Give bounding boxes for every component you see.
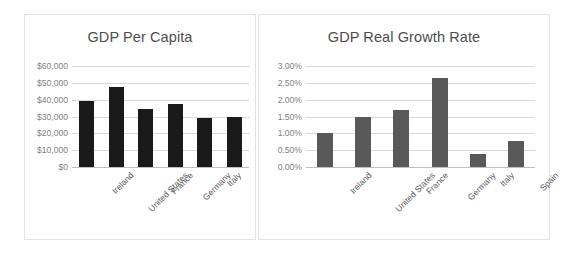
x-tick-label: Italy: [498, 171, 515, 188]
x-tick-label: France: [170, 171, 195, 196]
x-tick-label: Spain: [538, 171, 560, 193]
plot-area-gdp-real-growth-rate: 0.00%0.50%1.00%1.50%2.00%2.50%3.00% Irel…: [259, 15, 549, 239]
chart-panel-gdp-real-growth-rate[interactable]: GDP Real Growth Rate 0.00%0.50%1.00%1.50…: [258, 14, 550, 240]
charts-canvas: GDP Per Capita $0$10,000$20,000$30,000$4…: [0, 0, 575, 262]
plot-area-gdp-per-capita: $0$10,000$20,000$30,000$40,000$50,000$60…: [25, 15, 255, 239]
x-tick-label: Ireland: [349, 171, 374, 196]
x-axis-gdp-per-capita: IrelandUnited StatesFranceGermanyItalySp…: [25, 15, 255, 239]
x-axis-gdp-real-growth-rate: IrelandUnited StatesFranceGermanyItalySp…: [259, 15, 549, 239]
x-tick-label: Ireland: [110, 171, 135, 196]
chart-panel-gdp-per-capita[interactable]: GDP Per Capita $0$10,000$20,000$30,000$4…: [24, 14, 256, 240]
x-tick-label: Germany: [202, 171, 233, 202]
x-tick-label: Germany: [466, 171, 497, 202]
